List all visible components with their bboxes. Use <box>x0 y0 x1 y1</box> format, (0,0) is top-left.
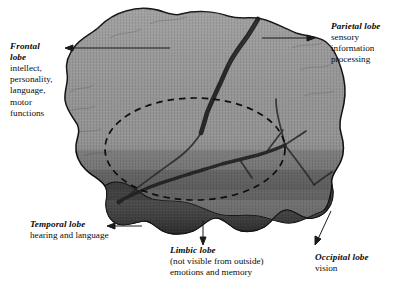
frontal-lobe-label: Frontal lobe intellect, personality, lan… <box>10 41 53 119</box>
parietal-lobe-name: Parietal lobe <box>331 21 381 32</box>
parietal-lobe-desc-3: processing <box>331 54 381 65</box>
limbic-lobe-name: Limbic lobe <box>170 245 264 256</box>
parietal-lobe-desc-1: sensory <box>331 32 381 43</box>
frontal-lobe-desc-3: language, <box>10 85 53 96</box>
frontal-lobe-name-line2: lobe <box>10 52 53 63</box>
frontal-lobe-desc-1: intellect, <box>10 63 53 74</box>
limbic-lobe-desc-1: (not visible from outside) <box>170 256 264 267</box>
temporal-lobe-label: Temporal lobe hearing and language <box>30 219 109 241</box>
occipital-lobe-label: Occipital lobe vision <box>315 252 369 274</box>
temporal-lobe-name: Temporal lobe <box>30 219 109 230</box>
temporal-lobe-desc-1: hearing and language <box>30 230 109 241</box>
limbic-lobe-desc-2: emotions and memory <box>170 267 264 278</box>
frontal-lobe-desc-5: functions <box>10 108 53 119</box>
frontal-lobe-name-line1: Frontal <box>10 41 53 52</box>
occipital-lobe-name: Occipital lobe <box>315 252 369 263</box>
occipital-lobe-desc-1: vision <box>315 263 369 274</box>
frontal-lobe-desc-2: personality, <box>10 74 53 85</box>
limbic-lobe-label: Limbic lobe (not visible from outside) e… <box>170 245 264 278</box>
frontal-lobe-desc-4: motor <box>10 97 53 108</box>
parietal-lobe-label: Parietal lobe sensory information proces… <box>331 21 381 66</box>
parietal-lobe-desc-2: information <box>331 43 381 54</box>
brain-diagram-figure: Frontal lobe intellect, personality, lan… <box>0 0 410 294</box>
